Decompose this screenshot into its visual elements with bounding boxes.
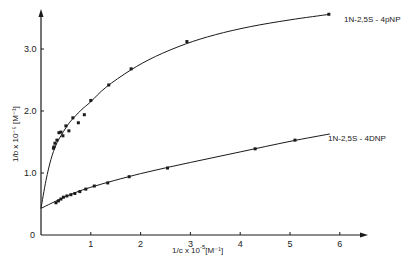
data-point-pnp [107,83,110,86]
data-point-dnp [166,167,169,170]
data-point-dnp [78,190,81,193]
data-point-pnp [61,134,64,137]
data-point-dnp [93,185,96,188]
x-tick-label: 6 [337,239,342,249]
data-point-dnp [106,181,109,184]
data-point-dnp [62,196,65,199]
data-point-pnp [130,67,133,70]
data-point-pnp [89,99,92,102]
data-point-pnp [59,131,62,134]
y-tick-label: 3.0 [24,44,37,54]
fit-curve-pnp [41,14,330,208]
axes [39,9,369,238]
y-axis-label: 1/b x 10⁻⁵ [M⁻¹] [11,106,20,162]
series-label-pnp: 1N-2,5S - 4pNP [344,15,400,24]
x-tick-label: 5 [287,239,292,249]
data-point-dnp [293,139,296,142]
data-point-pnp [327,13,330,16]
data-point-pnp [77,121,80,124]
data-point-dnp [73,192,76,195]
x-axis-label-text: 1/c x 10 [172,246,200,255]
fit-curves [41,14,330,208]
data-point-dnp [84,188,87,191]
y-tick-label: 0 [30,230,35,240]
data-point-pnp [83,113,86,116]
x-tick-label: 4 [238,239,243,249]
data-point-dnp [254,147,257,150]
data-point-pnp [53,142,56,145]
data-point-pnp [55,139,58,142]
data-point-pnp [71,116,74,119]
x-axis-arrow-icon [360,233,368,238]
y-tick-label: 1.0 [24,168,37,178]
data-point-dnp [65,194,68,197]
x-tick-label: 1 [88,239,93,249]
data-point-pnp [64,124,67,127]
data-point-pnp [52,145,55,148]
data-point-dnp [69,193,72,196]
x-axis-label: 1/c x 10-5[M⁻¹] [172,244,223,255]
x-tick-label: 2 [138,239,143,249]
x-axis-label-unit: [M⁻¹] [205,246,223,255]
data-point-pnp [67,129,70,132]
fit-curve-dnp [41,134,330,208]
y-axis-arrow-icon [39,9,44,17]
series-label-dnp: 1N-2,5S - 4DNP [328,134,386,143]
data-point-pnp [185,40,188,43]
data-point-dnp [128,175,131,178]
y-tick-label: 2.0 [24,106,37,116]
